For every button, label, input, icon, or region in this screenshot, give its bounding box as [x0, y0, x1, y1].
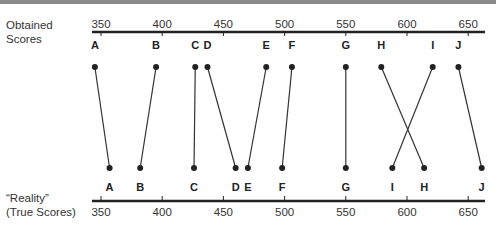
true-dot-b: [137, 165, 143, 171]
obtained-letter-d: D: [204, 39, 212, 51]
true-tick-label: 650: [459, 206, 478, 218]
true-dot-i: [389, 165, 395, 171]
obtained-tick-label: 350: [91, 18, 110, 30]
connector-f: [282, 67, 292, 168]
obtained-tick-label: 450: [214, 18, 233, 30]
connector-d: [207, 67, 235, 168]
score-diagram: 3503504004004504505005005505506006006506…: [0, 0, 496, 227]
obtained-tick-label: 550: [336, 18, 355, 30]
obtained-dot-c: [192, 64, 198, 70]
true-letter-a: A: [106, 181, 114, 193]
true-letter-i: I: [391, 181, 394, 193]
true-letter-j: J: [479, 181, 485, 193]
obtained-letter-e: E: [263, 39, 270, 51]
true-dot-h: [421, 165, 427, 171]
connector-i: [392, 67, 432, 168]
true-letter-c: C: [190, 181, 198, 193]
true-tick-label: 550: [336, 206, 355, 218]
connector-c: [194, 67, 195, 168]
true-letter-b: B: [136, 181, 144, 193]
obtained-dot-d: [204, 64, 210, 70]
true-dot-c: [191, 165, 197, 171]
connector-b: [140, 67, 156, 168]
obtained-tick-label: 600: [397, 18, 416, 30]
obtained-dot-j: [455, 64, 461, 70]
true-letter-e: E: [244, 181, 251, 193]
connector-h: [381, 67, 424, 168]
true-tick-label: 500: [275, 206, 294, 218]
connector-e: [248, 67, 266, 168]
obtained-dot-b: [153, 64, 159, 70]
true-tick-label: 450: [214, 206, 233, 218]
connector-j: [458, 67, 481, 168]
obtained-letter-h: H: [377, 39, 385, 51]
obtained-letter-b: B: [152, 39, 160, 51]
obtained-tick-label: 650: [459, 18, 478, 30]
obtained-letter-a: A: [91, 39, 99, 51]
true-tick-label: 400: [153, 206, 172, 218]
true-tick-label: 350: [91, 206, 110, 218]
true-letter-h: H: [420, 181, 428, 193]
obtained-letter-j: J: [455, 39, 461, 51]
obtained-dot-h: [378, 64, 384, 70]
true-dot-g: [343, 165, 349, 171]
true-letter-d: D: [232, 181, 240, 193]
obtained-tick-label: 500: [275, 18, 294, 30]
obtained-dot-g: [343, 64, 349, 70]
obtained-letter-c: C: [191, 39, 199, 51]
connector-a: [95, 67, 110, 168]
obtained-dot-f: [289, 64, 295, 70]
obtained-dot-a: [92, 64, 98, 70]
true-dot-e: [245, 165, 251, 171]
true-dot-d: [233, 165, 239, 171]
true-dot-j: [479, 165, 485, 171]
obtained-letter-i: I: [431, 39, 434, 51]
true-dot-a: [107, 165, 113, 171]
obtained-letter-f: F: [289, 39, 296, 51]
obtained-dot-i: [430, 64, 436, 70]
true-dot-f: [279, 165, 285, 171]
true-letter-f: F: [279, 181, 286, 193]
true-tick-label: 600: [397, 206, 416, 218]
obtained-letter-g: G: [342, 39, 351, 51]
true-letter-g: G: [342, 181, 351, 193]
obtained-dot-e: [263, 64, 269, 70]
obtained-tick-label: 400: [153, 18, 172, 30]
